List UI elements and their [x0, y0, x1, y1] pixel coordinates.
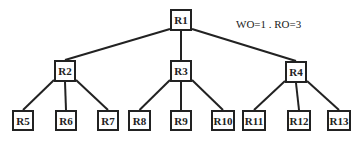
node-r2: R2	[54, 60, 76, 82]
edge-r2-r7	[76, 80, 108, 110]
edge-r4-r13	[307, 81, 339, 110]
edge-r2-r6	[65, 82, 66, 110]
node-r3: R3	[170, 60, 192, 82]
edge-r3-r8	[140, 80, 171, 110]
node-r10: R10	[211, 110, 235, 131]
edge-r4-r11	[254, 81, 285, 110]
node-r4: R4	[285, 61, 307, 83]
edge-r1-r2	[65, 29, 170, 60]
write-read-quorum-caption: WO=1 . RO=3	[236, 18, 301, 30]
node-r11: R11	[242, 110, 266, 131]
edge-r3-r10	[192, 80, 223, 110]
edge-r4-r12	[296, 83, 299, 110]
edge-r2-r5	[23, 80, 54, 110]
node-r5: R5	[12, 110, 34, 131]
node-r9: R9	[170, 110, 192, 131]
node-r13: R13	[327, 110, 351, 131]
edge-r1-r4	[192, 29, 296, 61]
node-r7: R7	[97, 110, 119, 131]
node-r6: R6	[55, 110, 77, 131]
node-r1: R1	[170, 9, 192, 31]
node-r8: R8	[128, 110, 151, 131]
node-r12: R12	[287, 110, 311, 131]
